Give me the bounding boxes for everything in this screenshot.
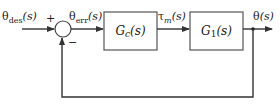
output-signal: θ(s) — [243, 10, 274, 31]
block-diagram: θdes(s) + − θerr(s) Gc(s) τm(s) G1(s) — [0, 0, 280, 107]
plant-label: G1(s) — [201, 24, 232, 39]
error-signal: θerr(s) — [69, 10, 103, 29]
minus-sign: − — [68, 36, 77, 49]
controller-block: Gc(s) — [104, 12, 157, 50]
output-label: θ(s) — [253, 10, 274, 23]
input-label: θdes(s) — [2, 10, 37, 25]
torque-signal: τm(s) — [157, 10, 189, 29]
plant-block: G1(s) — [190, 12, 243, 50]
summing-circle — [55, 21, 71, 37]
error-label: θerr(s) — [69, 10, 102, 25]
plus-sign: + — [46, 12, 55, 25]
torque-label: τm(s) — [158, 10, 186, 25]
controller-label: Gc(s) — [115, 24, 145, 39]
